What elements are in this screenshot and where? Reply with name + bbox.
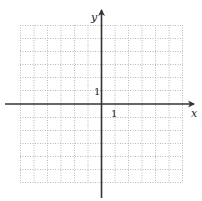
x-axis-label: x [191, 107, 198, 120]
x-tick-label: 1 [111, 108, 117, 119]
y-axis-label: y [90, 11, 98, 24]
coordinate-plane: x y 1 1 [0, 0, 202, 201]
y-tick-label: 1 [94, 86, 100, 97]
